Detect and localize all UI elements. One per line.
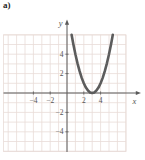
y-tick-label: 4 <box>60 50 64 59</box>
y-tick-label: −2 <box>56 108 64 117</box>
y-axis-label: y <box>58 18 63 28</box>
x-tick-label: −2 <box>46 96 54 105</box>
parabola-figure: a) −4−22442−2−4xy <box>0 0 145 160</box>
x-axis-label: x <box>132 96 137 106</box>
y-tick-label: −4 <box>56 127 64 136</box>
y-axis-arrow-icon <box>65 20 69 25</box>
x-axis-arrow-icon <box>136 91 141 95</box>
y-tick-label: 2 <box>60 69 64 78</box>
x-tick-label: −4 <box>29 96 37 105</box>
x-tick-label: 2 <box>82 96 86 105</box>
x-tick-label: 4 <box>99 96 103 105</box>
coordinate-plane-chart: −4−22442−2−4xy <box>0 0 145 160</box>
